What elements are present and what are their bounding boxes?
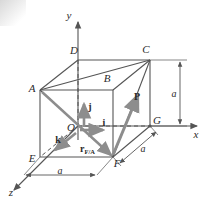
vector-label-r-subscript: F/A	[84, 148, 95, 155]
figure-container: y x z A B C D E F G O i j k P rF/A a a a	[0, 0, 209, 203]
dim-label-vertical-a: a	[172, 88, 177, 99]
vertex-label-E: E	[28, 152, 36, 164]
diagonal-A-C	[40, 60, 150, 90]
vertex-dot-G	[148, 124, 151, 127]
vector-label-k: k	[55, 134, 61, 145]
origin-label-O: O	[67, 121, 75, 133]
edge-A-D	[40, 60, 78, 90]
vector-label-r: rF/A	[80, 143, 95, 155]
axis-group	[14, 22, 197, 190]
vector-label-j: j	[87, 101, 91, 112]
vector-label-i: i	[103, 117, 106, 128]
vector-label-P: P	[134, 91, 140, 102]
vertex-label-C: C	[142, 43, 150, 55]
cube-vector-diagram: y x z A B C D E F G O i j k P rF/A a a a	[0, 0, 209, 203]
dim-label-bottom-a: a	[58, 165, 63, 176]
vector-rFA-arrow	[42, 92, 111, 155]
z-axis-label: z	[8, 186, 14, 198]
y-axis-label: y	[66, 9, 72, 21]
vertex-label-F: F	[113, 157, 121, 169]
z-axis-line	[14, 126, 78, 190]
label-group: y x z A B C D E F G O i j k P rF/A a a a	[8, 9, 199, 198]
vertex-label-A: A	[28, 82, 36, 94]
vertex-label-G: G	[153, 114, 161, 126]
dim-label-depth-a: a	[141, 143, 146, 154]
x-axis-label: x	[193, 128, 199, 140]
vertex-label-D: D	[69, 44, 78, 56]
dim-bottom-extension-right	[97, 157, 113, 175]
vertex-label-B: B	[104, 72, 111, 84]
position-vector-group	[42, 92, 111, 155]
